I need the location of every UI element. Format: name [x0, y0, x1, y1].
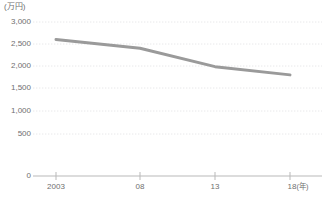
x-axis-unit-label: (年)	[296, 182, 308, 191]
data-line-series-1	[56, 39, 290, 74]
x-tick-label-18: 18(年)	[288, 182, 309, 191]
x-tick-label-08: 08	[136, 182, 145, 191]
line-chart: (万円) 3,000 2,500 2,000 1,500 1,000 500 0…	[0, 0, 322, 202]
gridlines	[33, 22, 322, 134]
x-tick-label-2003: 2003	[47, 182, 65, 191]
x-tick-label-13: 13	[211, 182, 220, 191]
x-tick-label-18-value: 18	[288, 182, 297, 191]
plot-area	[0, 0, 322, 202]
